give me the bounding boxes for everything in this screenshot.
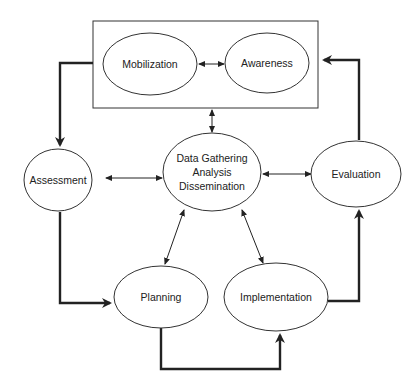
node-mobilization-label: Mobilization [122, 58, 178, 70]
node-planning: Planning [114, 266, 208, 328]
edge-assessment-to-planning [60, 212, 110, 303]
edge-implementation-to-evaluation [328, 211, 359, 301]
edge-evaluation-to-box [324, 60, 359, 140]
node-data-gathering-line-1: Data Gathering [176, 152, 247, 164]
edge-datagathering-planning [165, 210, 184, 264]
node-data-gathering-line-2: Analysis [192, 166, 231, 178]
node-data-gathering: Data Gathering Analysis Dissemination [163, 133, 261, 211]
node-assessment: Assessment [24, 149, 92, 211]
node-planning-label: Planning [141, 291, 182, 303]
node-data-gathering-line-3: Dissemination [179, 180, 245, 192]
diagram-canvas: Mobilization Awareness Assessment Data G… [0, 0, 415, 384]
node-assessment-label: Assessment [29, 174, 86, 186]
edge-planning-to-implementation [161, 328, 280, 369]
node-implementation-label: Implementation [240, 291, 312, 303]
edge-datagathering-implementation [242, 210, 263, 263]
node-mobilization: Mobilization [103, 33, 197, 95]
node-evaluation-label: Evaluation [331, 168, 380, 180]
node-evaluation: Evaluation [311, 141, 401, 207]
node-implementation: Implementation [224, 263, 328, 331]
edge-box-to-assessment [60, 63, 93, 145]
node-awareness-label: Awareness [241, 57, 293, 69]
node-awareness: Awareness [225, 33, 309, 93]
